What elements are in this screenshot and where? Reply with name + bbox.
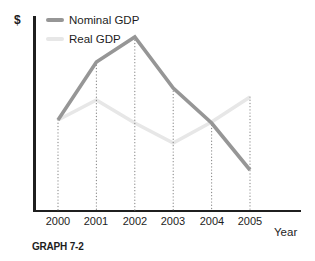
graph-caption: GRAPH 7-2 [32,241,84,252]
legend-swatch-nominal-gdp [46,18,64,22]
x-axis-title: Year [274,226,297,238]
gdp-line-chart-figure: $ Nominal GDP Real GDP 2000 2001 2002 20… [0,0,315,261]
x-tick-label-2005: 2005 [230,215,270,227]
y-axis-line [33,16,36,211]
nominal-gdp-line [58,37,250,170]
legend-item-nominal-gdp: Nominal GDP [46,13,139,27]
x-tick-label-2001: 2001 [76,215,116,227]
x-tick-label-2000: 2000 [38,215,78,227]
legend-item-real-gdp: Real GDP [46,32,121,46]
x-tick-label-2003: 2003 [153,215,193,227]
x-tick-label-2002: 2002 [115,215,155,227]
x-tick-label-2004: 2004 [192,215,232,227]
legend-label-real-gdp: Real GDP [69,32,121,46]
real-gdp-line [58,97,250,143]
legend-label-nominal-gdp: Nominal GDP [69,13,139,27]
x-axis-line [33,210,301,213]
legend-swatch-real-gdp [46,37,64,41]
y-axis-label: $ [14,13,21,27]
